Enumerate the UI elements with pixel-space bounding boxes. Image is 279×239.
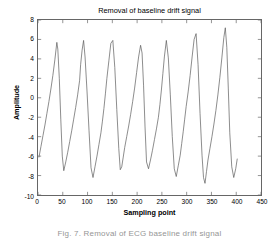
plot-area <box>37 19 262 196</box>
y-tick-label: -6 <box>2 153 34 160</box>
signal-plot-svg <box>38 20 261 195</box>
chart-title: Removal of baseline drift signal <box>37 6 262 15</box>
signal-line <box>39 28 237 184</box>
y-tick-label: 4 <box>2 55 34 62</box>
x-axis-label: Sampling point <box>37 208 262 217</box>
y-tick-label: 8 <box>2 16 34 23</box>
figure-caption: Fig. 7. Removal of ECG baseline drift si… <box>0 229 279 239</box>
y-tick-label: -8 <box>2 173 34 180</box>
y-tick-label: 6 <box>2 35 34 42</box>
figure-canvas: Removal of baseline drift signal -10-8-6… <box>0 0 279 239</box>
y-axis-label: Amplitude <box>12 63 21 143</box>
x-axis-ticks <box>38 20 261 195</box>
x-tick-label: 450 <box>247 198 277 206</box>
y-axis-ticks <box>38 20 261 195</box>
